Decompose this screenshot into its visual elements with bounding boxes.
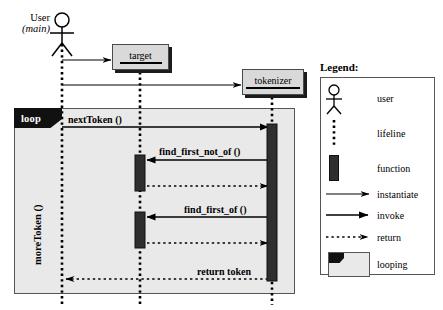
object-name-underline [120, 62, 162, 64]
legend-function-bar-icon [329, 155, 339, 181]
message-label-nexttoken: nextToken () [68, 114, 122, 125]
legend-title: Legend: [320, 61, 359, 73]
actor-user-name: User [6, 12, 50, 23]
object-box-tokenizer[interactable]: tokenizer [242, 69, 304, 95]
object-box-tokenizer-label: tokenizer [254, 75, 291, 86]
message-label-return-token: return token [197, 266, 251, 277]
message-label-find-first-not-of: find_first_not_of () [159, 146, 240, 157]
actor-user-icon [50, 13, 74, 56]
legend-label-function: function [377, 163, 410, 174]
loop-operator-label: loop [21, 113, 41, 124]
loop-guard-label: moreToken () [32, 205, 43, 265]
legend-label-user: user [377, 93, 394, 104]
activation-bar-tokenizer [267, 124, 277, 281]
legend-label-invoke: invoke [377, 210, 404, 221]
object-box-target-label: target [129, 50, 152, 61]
activation-bar-target-2 [135, 212, 145, 248]
legend-label-instantiate: instantiate [377, 189, 418, 200]
object-name-underline [246, 87, 300, 89]
actor-user-label: User (main) [6, 12, 50, 34]
legend-label-return: return [377, 232, 401, 243]
legend-label-lifeline: lifeline [377, 128, 405, 139]
actor-user-qualifier: (main) [6, 23, 50, 34]
message-label-find-first-of: find_first_of () [184, 204, 247, 215]
object-box-target[interactable]: target [112, 44, 169, 70]
legend-looping-frame-icon [328, 252, 370, 277]
legend-looping-tag-icon [329, 253, 344, 263]
activation-bar-target-1 [135, 155, 145, 191]
legend-label-looping: looping [377, 259, 408, 270]
